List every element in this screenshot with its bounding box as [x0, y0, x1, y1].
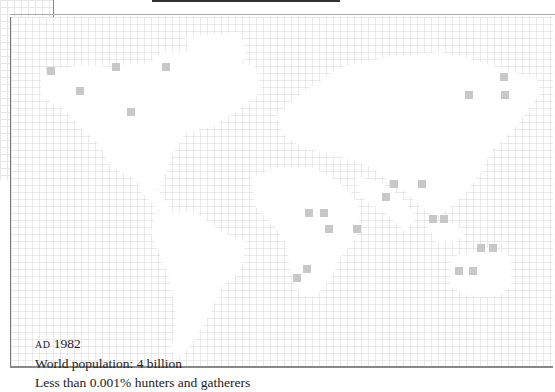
marker-square	[353, 225, 361, 233]
marker-square	[489, 244, 497, 252]
marker-square	[305, 209, 313, 217]
marker-square	[127, 108, 135, 116]
marker-square	[418, 180, 426, 188]
marker-square	[429, 215, 437, 223]
population-line: World population: 4 billion	[35, 354, 250, 373]
hunters-line: Less than 0.001% hunters and gatherers	[35, 373, 250, 392]
marker-square	[500, 73, 508, 81]
map-caption: AD 1982 World population: 4 billion Less…	[35, 334, 250, 392]
marker-square	[477, 244, 485, 252]
marker-square	[112, 63, 120, 71]
divider	[10, 14, 555, 15]
marker-square	[303, 265, 311, 273]
marker-square	[465, 91, 473, 99]
marker-square	[76, 87, 84, 95]
image-top-bar	[152, 0, 340, 2]
world-grid-map	[11, 17, 553, 366]
marker-square	[469, 267, 477, 275]
marker-square	[440, 215, 448, 223]
marker-square	[162, 63, 170, 71]
marker-square	[382, 193, 390, 201]
year-line: AD 1982	[35, 334, 250, 354]
marker-square	[325, 225, 333, 233]
marker-square	[501, 91, 509, 99]
marker-square	[47, 67, 55, 75]
marker-square	[320, 209, 328, 217]
marker-square	[293, 274, 301, 282]
world-map-frame: AD 1982 World population: 4 billion Less…	[10, 17, 553, 368]
marker-square	[390, 180, 398, 188]
marker-square	[455, 267, 463, 275]
